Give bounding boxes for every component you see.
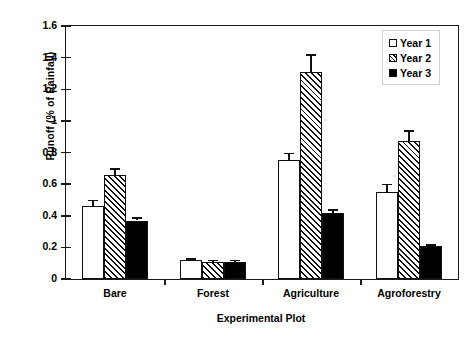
bar[interactable]	[82, 206, 104, 279]
x-axis-category-label: Agriculture	[262, 287, 360, 299]
x-axis-category-label: Forest	[164, 287, 262, 299]
error-bar-cap	[284, 153, 294, 154]
bar[interactable]	[224, 262, 246, 279]
y-axis-tick-label: 1.4	[42, 51, 57, 63]
legend-swatch-year3-icon	[389, 69, 397, 77]
bar[interactable]	[126, 221, 148, 280]
y-axis-tick-label: 1.6	[42, 19, 57, 31]
x-axis-tick-mark	[262, 279, 264, 285]
bar-group: Bare	[66, 26, 164, 279]
error-bar-cap	[382, 184, 392, 185]
bar[interactable]	[376, 192, 398, 279]
y-axis-tick-label: 1	[51, 114, 57, 126]
bar-group: Forest	[164, 26, 262, 279]
bar-group: Agriculture	[262, 26, 360, 279]
error-bar-cap	[230, 260, 240, 261]
error-bar-cap	[208, 260, 218, 261]
bar[interactable]	[322, 213, 344, 279]
legend-label-year3: Year 3	[400, 67, 431, 79]
error-bar-cap	[404, 130, 414, 131]
legend-label-year2: Year 2	[400, 52, 431, 64]
error-bar-cap	[110, 168, 120, 169]
bar[interactable]	[420, 246, 442, 279]
bar[interactable]	[278, 160, 300, 279]
error-bar-cap	[426, 244, 436, 245]
x-axis-category-label: Agroforestry	[360, 287, 458, 299]
legend-swatch-year2-icon	[389, 54, 397, 62]
error-bar-stem	[310, 54, 311, 71]
y-axis-tick-label: 1.2	[42, 82, 57, 94]
x-axis-category-label: Bare	[66, 287, 164, 299]
bar[interactable]	[398, 141, 420, 279]
legend-swatch-year1-icon	[389, 39, 397, 47]
legend-item-year3: Year 3	[389, 65, 431, 80]
error-bar-cap	[328, 209, 338, 210]
error-bar-cap	[132, 217, 142, 218]
y-axis-tick-label: 0.8	[42, 146, 57, 158]
plot-area: 00.20.40.60.811.21.41.6 BareForestAgricu…	[65, 25, 459, 280]
bar[interactable]	[300, 72, 322, 279]
chart-figure: Runoff (% of Rainfall) 00.20.40.60.811.2…	[0, 0, 473, 340]
chart-legend: Year 1 Year 2 Year 3	[382, 30, 440, 85]
error-bar-cap	[88, 200, 98, 201]
y-axis-tick-label: 0.2	[42, 240, 57, 252]
bar[interactable]	[104, 175, 126, 279]
y-axis-tick-label: 0	[51, 272, 57, 284]
x-axis-title: Experimental Plot	[65, 312, 457, 324]
legend-item-year2: Year 2	[389, 50, 431, 65]
y-axis-tick-label: 0.6	[42, 177, 57, 189]
x-axis-tick-mark	[164, 279, 166, 285]
error-bar-cap	[306, 54, 316, 55]
bar[interactable]	[202, 262, 224, 279]
error-bar-cap	[186, 258, 196, 259]
y-axis-tick-label: 0.4	[42, 209, 57, 221]
x-axis-tick-mark	[360, 279, 362, 285]
error-bar-stem	[408, 130, 409, 141]
legend-item-year1: Year 1	[389, 35, 431, 50]
bar[interactable]	[180, 260, 202, 279]
legend-label-year1: Year 1	[400, 37, 431, 49]
